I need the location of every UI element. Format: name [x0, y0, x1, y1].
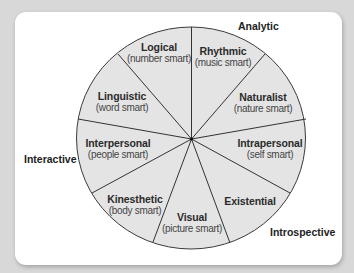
segment-name: Visual: [162, 211, 222, 223]
segment-name: Logical: [127, 41, 191, 53]
segment-naturalist: Naturalist (nature smart): [234, 91, 293, 115]
segment-subtitle: (number smart): [127, 53, 191, 65]
segment-intrapersonal: Intrapersonal (self smart): [237, 137, 302, 161]
segment-logical: Logical (number smart): [127, 41, 191, 65]
segment-interpersonal: Interpersonal (people smart): [85, 137, 150, 161]
segment-subtitle: (picture smart): [162, 223, 222, 235]
segment-subtitle: (self smart): [237, 149, 302, 161]
segment-subtitle: (nature smart): [234, 103, 293, 115]
segment-name: Kinesthetic: [107, 193, 163, 205]
group-label-interactive: Interactive: [24, 153, 77, 165]
segment-subtitle: (word smart): [96, 102, 149, 114]
segment-subtitle: (people smart): [85, 149, 150, 161]
segment-kinesthetic: Kinesthetic (body smart): [107, 193, 163, 217]
segment-name: Existential: [224, 195, 275, 207]
segment-subtitle: (music smart): [195, 57, 252, 69]
segment-name: Intrapersonal: [237, 137, 302, 149]
segment-existential: Existential: [224, 195, 275, 207]
segment-name: Naturalist: [234, 91, 293, 103]
segment-rhythmic: Rhythmic (music smart): [195, 45, 252, 69]
segment-name: Interpersonal: [85, 137, 150, 149]
group-label-analytic: Analytic: [238, 20, 279, 32]
group-label-introspective: Introspective: [270, 226, 335, 238]
segment-name: Linguistic: [96, 90, 149, 102]
segment-linguistic: Linguistic (word smart): [96, 90, 149, 114]
segment-name: Rhythmic: [195, 45, 252, 57]
segment-subtitle: (body smart): [107, 205, 163, 217]
segment-visual: Visual (picture smart): [162, 211, 222, 235]
wheel-center-dot: [190, 137, 193, 140]
